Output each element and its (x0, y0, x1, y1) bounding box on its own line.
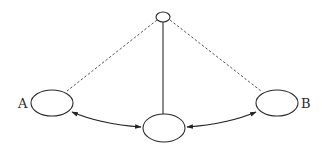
edges (67, 20, 261, 127)
node-b-label: B (301, 96, 311, 111)
node-center (143, 114, 185, 142)
nodes (31, 12, 298, 142)
node-b (256, 90, 298, 116)
edge-top-to-b-dashed (170, 20, 261, 91)
node-a (31, 90, 73, 116)
diagram-canvas: A B (0, 0, 322, 153)
edge-top-to-a-dashed (67, 20, 157, 91)
node-a-label: A (17, 96, 28, 111)
edge-center-b-bidirectional-arrow (187, 112, 256, 127)
edge-a-center-bidirectional-arrow (72, 112, 141, 127)
node-top (156, 12, 170, 22)
